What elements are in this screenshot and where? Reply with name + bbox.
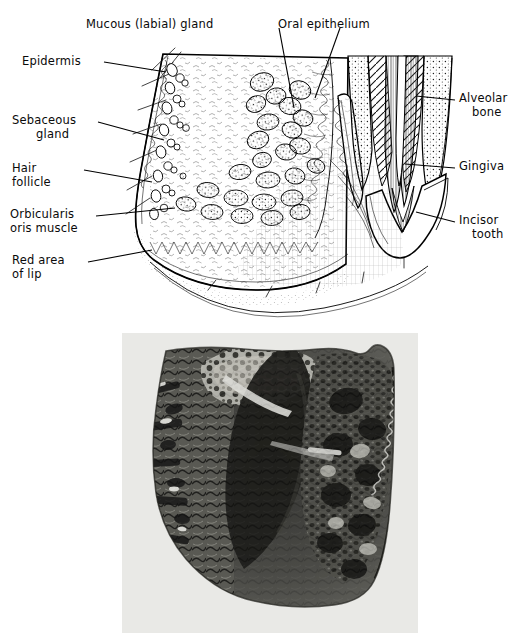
label-incisor-line1: Incisor [459, 214, 498, 228]
anatomy-figure: Epidermis Mucous (labial) gland Oral epi… [0, 0, 530, 638]
label-alveolar-bone-line2: bone [472, 106, 502, 120]
photomicrograph-panel [122, 333, 418, 633]
label-incisor-line2: tooth [472, 228, 503, 242]
label-orbicularis-line2: oris muscle [10, 222, 78, 236]
label-alveolar-bone-line1: Alveolar [459, 92, 508, 106]
label-hair-line1: Hair [12, 162, 36, 176]
label-sebaceous-line2: gland [36, 128, 69, 142]
label-red-area-line2: of lip [12, 268, 42, 282]
label-gingiva: Gingiva [459, 160, 504, 174]
leader-epidermis [104, 62, 166, 72]
label-oral-epithelium: Oral epithelium [278, 18, 370, 32]
label-epidermis: Epidermis [22, 55, 81, 69]
label-orbicularis-line1: Orbicularis [10, 208, 74, 222]
photomicrograph-image [122, 333, 418, 633]
label-red-area-line1: Red area [12, 254, 65, 268]
label-hair-line2: follicle [12, 176, 51, 190]
label-mucous-gland: Mucous (labial) gland [86, 18, 213, 32]
label-sebaceous-line1: Sebaceous [12, 114, 76, 128]
